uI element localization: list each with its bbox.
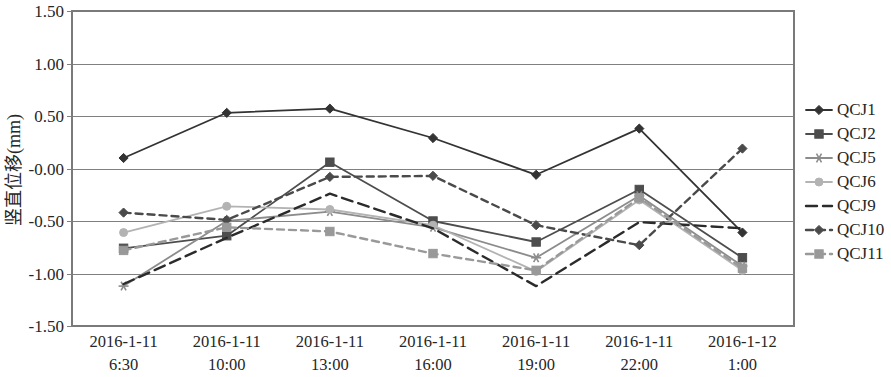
legend-label: QCJ1: [837, 100, 876, 119]
y-axis-title: 竖直位移(mm): [4, 114, 25, 226]
legend-item-qcj5[interactable]: QCJ5: [806, 148, 876, 167]
data-point-marker-circle: [326, 205, 334, 213]
x-axis-tick-labels: 2016-1-116:302016-1-1110:002016-1-1113:0…: [90, 332, 777, 374]
legend-label: QCJ5: [837, 148, 876, 167]
legend-item-qcj9[interactable]: QCJ9: [806, 196, 876, 215]
legend-item-qcj2[interactable]: QCJ2: [806, 124, 876, 143]
x-tick-label: 2016-1-1119:00: [502, 332, 570, 374]
y-tick-label: -0.00: [29, 160, 64, 179]
data-point-marker-diamond: [428, 133, 437, 142]
data-point-marker-diamond: [325, 172, 334, 181]
data-point-marker-square: [738, 254, 746, 262]
data-point-marker-circle: [120, 229, 128, 237]
data-series: [119, 104, 748, 290]
x-tick-label: 2016-1-116:30: [90, 332, 158, 374]
data-point-marker-square: [738, 264, 746, 272]
data-point-marker-square: [119, 246, 127, 254]
data-point-marker-diamond: [814, 225, 823, 234]
data-point-marker-diamond: [119, 208, 128, 217]
data-point-marker-square: [815, 130, 823, 138]
data-point-marker-square: [326, 158, 334, 166]
data-point-marker-square: [532, 238, 540, 246]
legend-label: QCJ2: [837, 124, 876, 143]
data-point-marker-circle: [223, 202, 231, 210]
x-tick-label: 2016-1-1122:00: [605, 332, 673, 374]
y-tick-label: -1.50: [29, 317, 64, 336]
y-tick-label: 0.50: [34, 107, 64, 126]
legend-item-qcj11[interactable]: QCJ11: [806, 244, 884, 263]
legend-item-qcj1[interactable]: QCJ1: [806, 100, 876, 119]
data-point-marker-diamond: [532, 170, 541, 179]
plot-area-border: [72, 11, 794, 326]
legend-item-qcj10[interactable]: QCJ10: [806, 220, 884, 239]
y-tick-label: 1.00: [34, 55, 64, 74]
x-tick-label: 2016-1-1113:00: [296, 332, 364, 374]
legend: QCJ1QCJ2QCJ5QCJ6QCJ9QCJ10QCJ11: [806, 100, 884, 263]
legend-label: QCJ11: [837, 244, 884, 263]
x-tick-label: 2016-1-1110:00: [193, 332, 261, 374]
y-tick-label: -0.50: [29, 212, 64, 231]
y-tick-label: -1.00: [29, 265, 64, 284]
data-point-marker-diamond: [325, 104, 334, 113]
legend-item-qcj6[interactable]: QCJ6: [806, 172, 876, 191]
legend-label: QCJ6: [837, 172, 876, 191]
legend-label: QCJ10: [837, 220, 884, 239]
data-point-marker-diamond: [428, 171, 437, 180]
x-tick-label: 2016-1-121:00: [708, 332, 777, 374]
y-axis-tick-labels: 1.501.000.50-0.00-0.50-1.00-1.50: [29, 2, 72, 336]
series-qcj10: [119, 144, 747, 250]
line-chart: 竖直位移(mm) 1.501.000.50-0.00-0.50-1.00-1.5…: [0, 0, 891, 377]
series-qcj5: [119, 191, 748, 290]
data-point-marker-square: [326, 227, 334, 235]
data-point-marker-square: [223, 223, 231, 231]
legend-label: QCJ9: [837, 196, 876, 215]
data-point-marker-circle: [815, 178, 823, 186]
data-point-marker-square: [635, 194, 643, 202]
chart-container: 竖直位移(mm) 1.501.000.50-0.00-0.50-1.00-1.5…: [0, 0, 891, 377]
gridlines: [72, 65, 794, 275]
data-point-marker-diamond: [119, 153, 128, 162]
y-axis-title-group: 竖直位移(mm): [4, 114, 25, 226]
data-point-marker-square: [532, 266, 540, 274]
data-point-marker-star: [814, 154, 824, 163]
series-qcj6: [120, 196, 747, 275]
x-tick-label: 2016-1-1116:00: [399, 332, 467, 374]
data-point-marker-square: [429, 249, 437, 257]
data-point-marker-diamond: [814, 105, 823, 114]
y-tick-label: 1.50: [34, 2, 64, 21]
data-point-marker-square: [635, 185, 643, 193]
data-point-marker-square: [815, 250, 823, 258]
